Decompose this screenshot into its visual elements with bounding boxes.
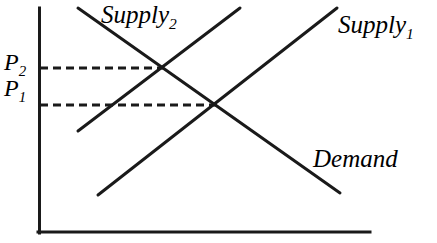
supply2-curve-label: Supply2	[101, 2, 177, 32]
dashed-guides-group	[40, 68, 219, 105]
price-label-p1-subscript: 1	[19, 89, 26, 105]
price-label-p2-text: P	[4, 49, 19, 75]
price-label-p1: P1	[4, 76, 26, 105]
price-label-p1-text: P	[4, 75, 19, 101]
supply2-label-text: Supply	[101, 1, 169, 28]
supply1-label-text: Supply	[338, 11, 406, 38]
demand-curve-label: Demand	[313, 146, 398, 171]
supply2-label-subscript: 2	[169, 15, 177, 32]
supply1-curve-label: Supply1	[338, 12, 414, 42]
supply-demand-figure: Supply2 Supply1 Demand P2 P1	[0, 0, 437, 243]
axes-group	[38, 8, 370, 233]
curves-group	[78, 8, 340, 195]
demand-label-text: Demand	[313, 145, 398, 172]
supply1-label-subscript: 1	[406, 25, 414, 42]
